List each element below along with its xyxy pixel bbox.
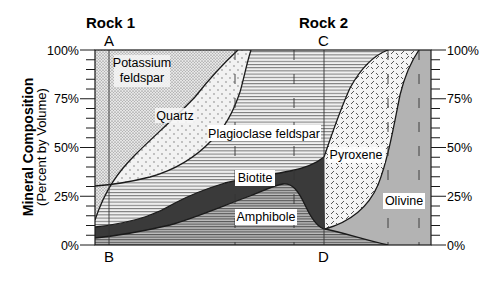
right-tick-25: 25% xyxy=(447,190,472,204)
label-quartz: Quartz xyxy=(156,109,194,123)
rock-1-title: Rock 1 xyxy=(86,14,135,31)
label-amphibole: Amphibole xyxy=(236,210,295,224)
right-axis-ticks xyxy=(431,50,446,245)
label-A: A xyxy=(104,32,114,49)
label-potassium-line1: Potassium xyxy=(113,56,171,70)
left-tick-100: 100% xyxy=(47,44,79,58)
label-biotite: Biotite xyxy=(238,171,273,185)
right-tick-100: 100% xyxy=(447,44,479,58)
mineral-composition-diagram: 100% 75% 50% 25% 0% 100% 75% 50% 25% 0% … xyxy=(0,0,498,282)
right-tick-50: 50% xyxy=(447,141,472,155)
label-B: B xyxy=(104,248,114,265)
label-C: C xyxy=(318,32,329,49)
left-tick-50: 50% xyxy=(54,141,79,155)
label-olivine: Olivine xyxy=(385,194,423,208)
left-tick-0: 0% xyxy=(61,239,79,253)
rock-2-title: Rock 2 xyxy=(299,14,348,31)
left-tick-25: 25% xyxy=(54,190,79,204)
right-tick-0: 0% xyxy=(447,239,465,253)
label-plagioclase: Plagioclase feldspar xyxy=(208,127,320,141)
label-potassium-line2: feldspar xyxy=(120,71,164,85)
right-tick-75: 75% xyxy=(447,92,472,106)
label-pyroxene: Pyroxene xyxy=(330,148,383,162)
y-axis-sublabel: (Percent by Volume) xyxy=(34,88,49,206)
label-D: D xyxy=(318,248,329,265)
left-axis-ticks xyxy=(80,50,95,245)
left-tick-75: 75% xyxy=(54,92,79,106)
